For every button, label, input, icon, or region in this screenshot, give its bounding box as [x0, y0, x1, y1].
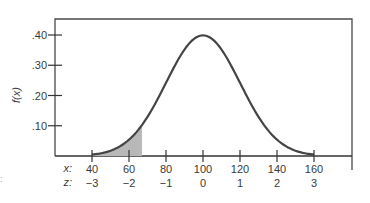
x-row-label: x: — [62, 162, 72, 174]
z-tick-label: −2 — [123, 177, 136, 189]
z-tick-label: 1 — [237, 177, 243, 189]
z-tick-label: 2 — [274, 177, 280, 189]
z-tick-label: −3 — [86, 177, 99, 189]
y-axis-label: f(x) — [10, 87, 22, 103]
x-tick-label: 60 — [123, 163, 135, 175]
x-tick-label: 120 — [231, 163, 249, 175]
z-tick-label: −1 — [160, 177, 173, 189]
y-tick-label: .20 — [32, 90, 47, 102]
shaded-tail-region — [92, 125, 142, 156]
z-tick-label: 0 — [200, 177, 206, 189]
x-tick-label: 160 — [305, 163, 323, 175]
x-tick-label: 80 — [160, 163, 172, 175]
stray-mark: : — [0, 174, 3, 184]
y-axis-ticks: .10.20.30.40 — [32, 29, 62, 132]
density-curve — [92, 35, 314, 154]
shaded-area — [92, 125, 142, 156]
x-tick-label: 140 — [268, 163, 286, 175]
x-tick-label: 100 — [194, 163, 212, 175]
density-curve-path — [92, 35, 314, 154]
x-tick-label: 40 — [86, 163, 98, 175]
frame-border — [55, 19, 352, 170]
normal-distribution-chart: .10.20.30.40 40−360−280−1100012011402160… — [0, 0, 370, 203]
z-tick-label: 3 — [311, 177, 317, 189]
plot-frame — [55, 19, 352, 170]
y-tick-label: .10 — [32, 120, 47, 132]
y-tick-label: .30 — [32, 59, 47, 71]
y-tick-label: .40 — [32, 29, 47, 41]
z-row-label: z: — [62, 176, 72, 188]
